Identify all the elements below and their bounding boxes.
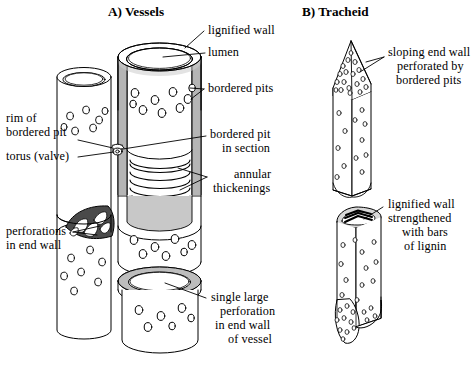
vessel-front-end-wall-upper [118,196,201,240]
label-lignified-wall: lignified wall [208,24,275,38]
label-bordered-pit-in-section-line1: bordered pit [210,128,270,142]
label-single-large-perforation-line3: in end wall [215,319,270,333]
vessel-back-lower [57,223,111,339]
panel-b-title: B) Tracheid [302,4,369,20]
label-single-large-perforation-line2: perforation [220,305,275,319]
label-lignified-wall-bars-line3: with bars [402,226,448,240]
bordered-pits-front-top [130,84,195,117]
label-lumen: lumen [208,46,239,60]
panel-a-title: A) Vessels [108,4,164,20]
label-bordered-pit-in-section-line2: in section [222,142,270,156]
label-perforations-in-end-wall-line2: in end wall [6,239,61,253]
tracheid-lower [335,207,381,343]
label-torus-valve: torus (valve) [6,150,69,164]
label-lignified-wall-bars-line4: of lignin [404,240,447,254]
label-sloping-end-wall-line2: perforated by [397,60,464,74]
label-rim-of-bordered-pit-line2: bordered pit [6,126,66,140]
tracheid-upper [333,41,371,197]
label-single-large-perforation-line1: single large [211,291,269,305]
label-lignified-wall-bars-line2: strengthened [388,212,451,226]
label-sloping-end-wall-line3: bordered pits [396,74,461,88]
vessel-front-bottom-segment [122,290,198,353]
label-annular-thickenings-line2: thickenings [213,182,270,196]
label-single-large-perforation-line4: of vessel [228,333,272,347]
figure-root: A) Vessels B) Tracheid lignified wall lu… [0,0,472,367]
label-annular-thickenings-line1: annular [234,168,271,182]
label-bordered-pits: bordered pits [208,82,273,96]
label-perforations-in-end-wall-line1: perforations [6,225,66,239]
label-sloping-end-wall-line1: sloping end wall [388,46,470,60]
label-lignified-wall-bars-line1: lignified wall [388,198,455,212]
label-rim-of-bordered-pit-line1: rim of [6,112,37,126]
